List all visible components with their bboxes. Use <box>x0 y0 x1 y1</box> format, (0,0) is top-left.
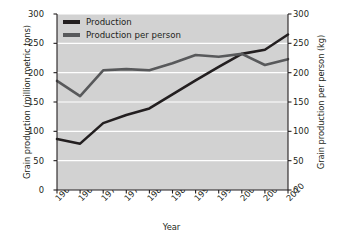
legend-label: Production per person <box>86 30 181 40</box>
legend-item-1: Production <box>63 16 181 28</box>
legend-item-2: Production per person <box>63 29 181 41</box>
chart-legend: ProductionProduction per person <box>63 16 181 42</box>
legend-label: Production <box>86 17 132 27</box>
legend-swatch-icon <box>63 33 80 37</box>
legend-swatch-icon <box>63 20 80 24</box>
grain-production-chart: Grain production (million metric tons) G… <box>0 0 343 239</box>
